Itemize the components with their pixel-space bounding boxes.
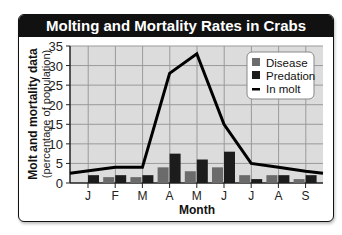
x-tick-label: J bbox=[221, 189, 227, 203]
predation-bar bbox=[170, 154, 181, 183]
disease-bar bbox=[103, 177, 114, 183]
y-tick-label: 0 bbox=[56, 176, 63, 191]
x-tick-label: M bbox=[137, 189, 147, 203]
chart-plot: 05101520253035JFMAMJJASMonthMolt and mor… bbox=[0, 0, 342, 235]
disease-bar bbox=[212, 167, 223, 183]
predation-bar bbox=[142, 175, 153, 183]
x-tick-label: A bbox=[166, 189, 174, 203]
x-tick-label: F bbox=[112, 189, 119, 203]
disease-bar bbox=[158, 167, 169, 183]
legend-item: In molt bbox=[266, 83, 301, 95]
disease-bar bbox=[239, 175, 250, 183]
legend-item: Disease bbox=[266, 57, 308, 69]
x-axis-label: Month bbox=[179, 203, 215, 217]
predation-bar bbox=[224, 152, 235, 183]
disease-bar bbox=[266, 175, 277, 183]
predation-bar bbox=[197, 160, 208, 183]
predation-bar bbox=[306, 175, 317, 183]
predation-bar bbox=[251, 179, 262, 183]
disease-bar bbox=[185, 171, 196, 183]
predation-bar bbox=[278, 175, 289, 183]
y-axis-sublabel: (percentage of population) bbox=[40, 50, 52, 178]
x-tick-label: J bbox=[248, 189, 254, 203]
y-tick-label: 5 bbox=[56, 156, 63, 171]
x-tick-label: A bbox=[274, 189, 282, 203]
predation-bar bbox=[88, 175, 99, 183]
disease-bar bbox=[130, 177, 141, 183]
x-tick-label: M bbox=[192, 189, 202, 203]
disease-bar bbox=[294, 179, 305, 183]
y-axis-label: Molt and mortality data bbox=[26, 48, 40, 180]
legend-item: Predation bbox=[266, 70, 315, 82]
x-tick-label: J bbox=[85, 189, 91, 203]
x-tick-label: S bbox=[302, 189, 310, 203]
predation-bar bbox=[115, 175, 126, 183]
